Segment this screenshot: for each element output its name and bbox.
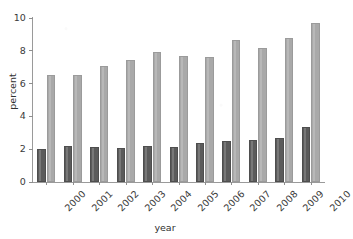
bar-highlight <box>102 67 104 181</box>
bar <box>285 38 294 182</box>
x-tick-label: 2008 <box>274 188 299 213</box>
bar <box>311 23 320 182</box>
x-tick-mark <box>284 182 285 185</box>
x-tick-mark <box>126 182 127 185</box>
bar <box>222 141 231 182</box>
x-tick-label: 2001 <box>89 188 114 213</box>
bar-highlight <box>119 149 121 181</box>
bar <box>73 75 82 182</box>
x-tick-mark <box>258 182 259 185</box>
bar-highlight <box>207 58 209 181</box>
bar <box>126 60 135 182</box>
bar-highlight <box>92 148 94 181</box>
x-tick-mark <box>205 182 206 185</box>
x-tick-label: 2009 <box>301 188 326 213</box>
y-tick-label: 4 <box>20 109 26 122</box>
bar-highlight <box>260 49 262 181</box>
x-tick-mark <box>231 182 232 185</box>
bar-highlight <box>75 76 77 181</box>
bar <box>302 127 311 182</box>
bar <box>205 57 214 182</box>
bar-highlight <box>66 147 68 181</box>
bar <box>90 147 99 182</box>
bar-highlight <box>304 128 306 181</box>
x-tick-label: 2000 <box>63 188 88 213</box>
plot-area <box>33 18 324 182</box>
x-tick-label: 2005 <box>195 188 220 213</box>
bar <box>196 143 205 182</box>
bar-highlight <box>172 148 174 181</box>
bar <box>153 52 162 182</box>
y-axis-title: percent <box>7 73 18 109</box>
bar-highlight <box>128 61 130 181</box>
bar <box>275 138 284 182</box>
bar-highlight <box>145 147 147 181</box>
bar <box>100 66 109 182</box>
x-tick-mark <box>311 182 312 185</box>
x-tick-label: 2010 <box>327 188 352 213</box>
y-tick-label: 0 <box>20 175 26 188</box>
bar <box>37 149 46 182</box>
y-tick-label: 8 <box>20 44 26 57</box>
y-tick-label: 6 <box>20 77 26 90</box>
bar <box>170 147 179 182</box>
bar-highlight <box>39 150 41 181</box>
x-tick-mark <box>179 182 180 185</box>
bar-highlight <box>277 139 279 181</box>
y-tick-label: 2 <box>20 142 26 155</box>
bar <box>232 40 241 182</box>
x-axis-title: year <box>0 222 330 233</box>
x-tick-mark <box>152 182 153 185</box>
bar-highlight <box>181 57 183 181</box>
x-tick-label: 2006 <box>221 188 246 213</box>
bar-highlight <box>251 141 253 181</box>
x-tick-mark <box>73 182 74 185</box>
x-tick-label: 2003 <box>142 188 167 213</box>
x-tick-label: 2002 <box>115 188 140 213</box>
bar-highlight <box>224 142 226 181</box>
bar <box>117 148 126 182</box>
bar <box>249 140 258 182</box>
bar <box>179 56 188 182</box>
bar-highlight <box>155 53 157 181</box>
bar-highlight <box>49 76 51 181</box>
bar <box>143 146 152 182</box>
bar-highlight <box>313 24 315 181</box>
bar <box>258 48 267 182</box>
x-tick-label: 2007 <box>248 188 273 213</box>
bar-highlight <box>234 41 236 181</box>
bar <box>64 146 73 182</box>
bar-highlight <box>287 39 289 181</box>
bar-highlight <box>198 144 200 181</box>
x-tick-label: 2004 <box>168 188 193 213</box>
y-tick-label: 10 <box>14 11 26 24</box>
bar <box>47 75 56 182</box>
x-tick-mark <box>99 182 100 185</box>
x-tick-mark <box>46 182 47 185</box>
